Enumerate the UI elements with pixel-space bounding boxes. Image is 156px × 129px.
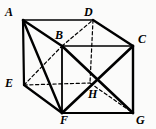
cube-svg-canvas <box>0 0 156 129</box>
vertex-label-e: E <box>5 77 13 89</box>
vertex-label-d: D <box>84 6 93 18</box>
edge-E-H <box>24 83 90 85</box>
edge-B-D <box>62 20 93 46</box>
vertex-label-c: C <box>138 33 146 45</box>
edge-E-A <box>23 20 24 85</box>
vertex-label-g: G <box>136 114 145 126</box>
vertex-label-b: B <box>55 29 63 41</box>
cube-diagram: ABCDEFGH <box>0 0 156 129</box>
vertex-label-a: A <box>5 6 13 18</box>
edge-D-C <box>93 20 133 46</box>
vertex-label-h: H <box>88 88 97 100</box>
vertex-label-f: F <box>60 114 68 126</box>
